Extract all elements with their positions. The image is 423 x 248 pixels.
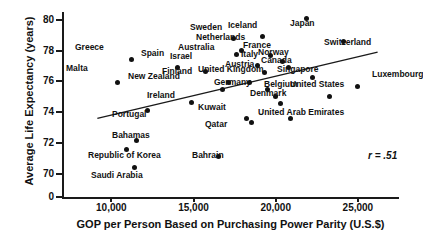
data-point-label: Luxembourg xyxy=(372,70,423,79)
data-point-label: Spain xyxy=(141,49,164,58)
data-point xyxy=(189,100,194,105)
data-point xyxy=(278,101,283,106)
data-point-label: Republic of Korea xyxy=(88,151,161,160)
data-point-label: Japan xyxy=(290,19,315,28)
data-point-label: Iceland xyxy=(228,21,257,30)
correlation-annotation: r = .51 xyxy=(368,150,397,161)
data-point-label: New Zealand xyxy=(128,72,180,81)
data-point xyxy=(355,84,360,89)
data-point-label: United Arab Emirates xyxy=(258,108,344,117)
data-point-label: Australia xyxy=(178,43,214,52)
data-point-label: Portugal xyxy=(112,110,146,119)
data-point-label: Bahamas xyxy=(112,131,150,140)
data-point-label: Malta xyxy=(66,64,88,73)
data-point-label: Netherlands xyxy=(196,33,245,42)
data-point xyxy=(327,94,332,99)
data-point-label: Qatar xyxy=(205,120,227,129)
data-point-label: Germany xyxy=(214,78,251,87)
data-point-label: United States xyxy=(290,80,344,89)
data-point-label: Bahrain xyxy=(192,151,224,160)
data-point-label: Sweden xyxy=(190,23,222,32)
data-point xyxy=(129,57,134,62)
data-point-label: United Kingdom xyxy=(198,65,264,74)
data-point-label: Singapore xyxy=(277,65,319,74)
data-point xyxy=(244,116,249,121)
data-point-label: Israel xyxy=(170,52,192,61)
data-point-label: Greece xyxy=(75,43,104,52)
data-point xyxy=(249,120,254,125)
data-point-label: Ireland xyxy=(147,91,175,100)
data-point-label: Italy xyxy=(241,50,258,59)
data-point xyxy=(115,80,120,85)
data-point xyxy=(234,52,239,57)
data-point xyxy=(220,87,225,92)
data-point xyxy=(260,34,265,39)
data-point-label: Saudi Arabia xyxy=(91,171,143,180)
data-point-label: Denmark xyxy=(250,89,286,98)
data-point-label: Kuwait xyxy=(198,103,226,112)
data-point-label: Switzerland xyxy=(324,38,371,47)
